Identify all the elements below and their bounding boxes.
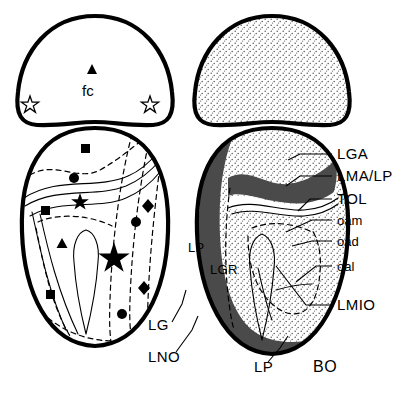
triangle-marker-solid [87,64,97,74]
fc-label: fc [82,82,94,99]
circle-marker-1 [69,173,79,183]
figure-root: fc [0,0,399,394]
square-marker-1 [81,144,90,153]
callout-tol: TOL [337,190,367,207]
circle-marker-2 [131,217,141,227]
panel-label-bo: BO [313,358,337,375]
star-marker-1 [71,193,89,210]
square-marker-2 [41,206,50,215]
star-marker-large [98,242,129,272]
callout-lp-bottom: LP [254,358,273,375]
callout-oad: oad [337,234,359,249]
star-marker-open-left [21,96,38,112]
callout-lma-lp: LMA/LP [337,167,393,184]
anatomical-diagram: fc [0,0,399,394]
inner-label-lp: LP [188,240,205,255]
circle-marker-3 [117,309,127,319]
left-top-cap-contents: fc [21,64,158,112]
callout-lg: LG [148,316,169,333]
diamond-marker-1 [142,199,154,213]
callout-oam: oam [337,213,362,228]
inner-label-lgr: LGR [210,262,238,277]
callout-lga: LGA [337,145,368,162]
triangle-marker-2 [57,238,68,248]
callout-lno: LNO [148,348,180,365]
star-marker-open-right [141,96,158,112]
left-lower-body [22,128,168,346]
callout-oal: oal [337,259,354,274]
square-marker-3 [46,290,55,299]
right-top-cap [194,16,349,125]
callout-lmio: LMIO [337,296,375,313]
